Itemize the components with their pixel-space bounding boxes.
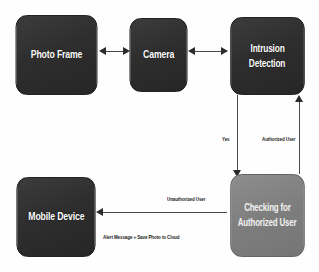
node-intrusion-detection-label-line1: Intrusion: [250, 41, 284, 56]
node-mobile-device[interactable]: Mobile Device: [16, 177, 95, 257]
edge-checking-mobile: [98, 212, 227, 213]
edge-checking-intrusion: [299, 96, 300, 174]
node-checking-label-line2: Authorized User: [238, 216, 297, 231]
node-intrusion-detection-label-line2: Detection: [249, 56, 285, 71]
edge-label-yes: Yes: [222, 136, 229, 142]
node-camera-label: Camera: [143, 47, 174, 63]
edge-label-authorized-user: Authorized User: [262, 136, 295, 142]
arrow-head-photo-frame: [99, 47, 106, 55]
arrow-head-mobile-right: [96, 208, 103, 216]
node-checking-authorized-user[interactable]: Checking for Authorized User: [230, 174, 305, 257]
arrow-head-intrusion-bottom: [295, 95, 303, 102]
node-photo-frame[interactable]: Photo Frame: [16, 15, 98, 95]
node-checking-label-line1: Checking for: [244, 201, 290, 216]
edge-label-unauthorized-user: Unauthorized User: [167, 196, 205, 202]
diagram-canvas: Yes Authorized User Unauthorized User Al…: [0, 0, 319, 272]
arrow-head-intrusion-left: [221, 47, 228, 55]
arrow-head-camera-right: [188, 47, 195, 55]
node-intrusion-detection[interactable]: Intrusion Detection: [230, 17, 305, 95]
node-mobile-device-label: Mobile Device: [28, 209, 84, 225]
edge-label-alert-message: Alert Message + Save Photo to Cloud: [103, 234, 179, 240]
node-camera[interactable]: Camera: [130, 18, 188, 92]
edge-intrusion-checking: [237, 95, 238, 172]
node-photo-frame-label: Photo Frame: [31, 47, 82, 63]
